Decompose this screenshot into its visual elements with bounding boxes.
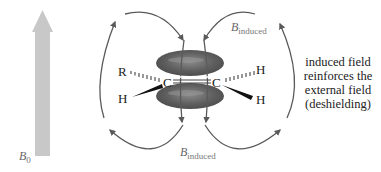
external-field-arrow: [32, 10, 53, 156]
annotation-line-1: induced field: [305, 55, 371, 69]
atom-h-right-bottom: H: [256, 92, 265, 107]
atom-r: R: [118, 64, 127, 79]
right-dashed-bond: [226, 71, 254, 82]
double-bond: [173, 77, 211, 83]
external-field-label: B0: [19, 149, 31, 165]
right-wedge-bond: [222, 85, 253, 100]
induced-field-label-bottom: Binduced: [180, 145, 216, 161]
induced-field-label-top: Binduced: [231, 20, 267, 36]
field-line-bottom-left: [110, 125, 183, 149]
atom-c-left: C: [163, 75, 172, 90]
deshielding-annotation: induced field reinforces the external fi…: [304, 55, 373, 111]
left-dashed-bond: [131, 71, 159, 82]
annotation-line-4: (deshielding): [305, 97, 371, 111]
annotation-line-3: external field: [305, 83, 372, 97]
field-line-left-outer: [100, 22, 115, 118]
field-line-bottom-right: [205, 125, 280, 149]
arrow-up-icon: [32, 10, 53, 32]
field-line-top-left: [125, 12, 183, 40]
alkene-deshielding-diagram: B0: [0, 0, 381, 172]
arrow-shaft: [35, 31, 50, 156]
field-line-right-outer: [280, 24, 295, 118]
pi-cloud-top: [156, 50, 224, 76]
atom-c-right: C: [212, 75, 221, 90]
atom-h-left: H: [118, 91, 127, 106]
atom-h-right-top: H: [256, 62, 265, 77]
annotation-line-2: reinforces the: [304, 69, 373, 83]
